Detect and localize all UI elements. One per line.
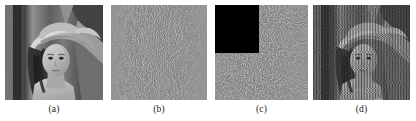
panel-d-caption: (d) (313, 103, 410, 115)
cipher-noise-image (111, 5, 207, 100)
panel-b-cipher-image (111, 5, 207, 100)
panel-d-decrypted-image (313, 5, 410, 100)
cropped-black-region (215, 5, 259, 53)
panel-c-caption: (c) (215, 103, 308, 115)
original-lena-grayscale-image (5, 5, 103, 100)
decrypted-lena-with-artifacts (313, 5, 410, 100)
panel-b-caption: (b) (111, 103, 207, 115)
panel-a-original-image (5, 5, 103, 100)
figure-panel-row: (a) (b) (0, 0, 416, 121)
panel-c-cropped-cipher-image (215, 5, 308, 100)
panel-a-caption: (a) (5, 103, 103, 115)
